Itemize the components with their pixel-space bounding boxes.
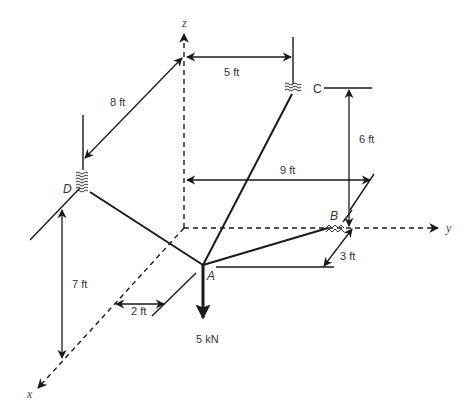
point-a-label: A xyxy=(206,269,215,283)
dim-5ft-label: 5 ft xyxy=(224,66,239,78)
cable-ab xyxy=(203,228,328,265)
y-axis-label: y xyxy=(445,221,452,235)
anchor-d-icon xyxy=(76,172,88,192)
dim-2ft-label: 2 ft xyxy=(131,305,146,317)
dim-3ft-label: 3 ft xyxy=(340,250,355,262)
dim-9ft-label: 9 ft xyxy=(280,164,295,176)
dim-8ft xyxy=(85,58,182,158)
x-axis xyxy=(38,228,184,388)
statics-diagram: z y x xyxy=(0,0,474,415)
support-b-ref2 xyxy=(343,210,352,222)
load-label: 5 kN xyxy=(196,333,219,345)
coordinate-axes xyxy=(38,34,438,388)
dim-6ft-label: 6 ft xyxy=(359,133,374,145)
z-axis-label: z xyxy=(181,16,187,30)
point-b-label: B xyxy=(330,209,338,223)
point-d-label: D xyxy=(63,182,72,196)
x-axis-label: x xyxy=(26,387,33,401)
two-ft-ref xyxy=(152,273,196,316)
dim-8ft-label: 8 ft xyxy=(110,96,125,108)
anchor-c-icon xyxy=(285,83,301,91)
dimension-arrows xyxy=(62,57,370,358)
support-d-ref xyxy=(30,188,80,240)
dim-7ft-label: 7 ft xyxy=(72,278,87,290)
point-c-label: C xyxy=(313,82,322,96)
